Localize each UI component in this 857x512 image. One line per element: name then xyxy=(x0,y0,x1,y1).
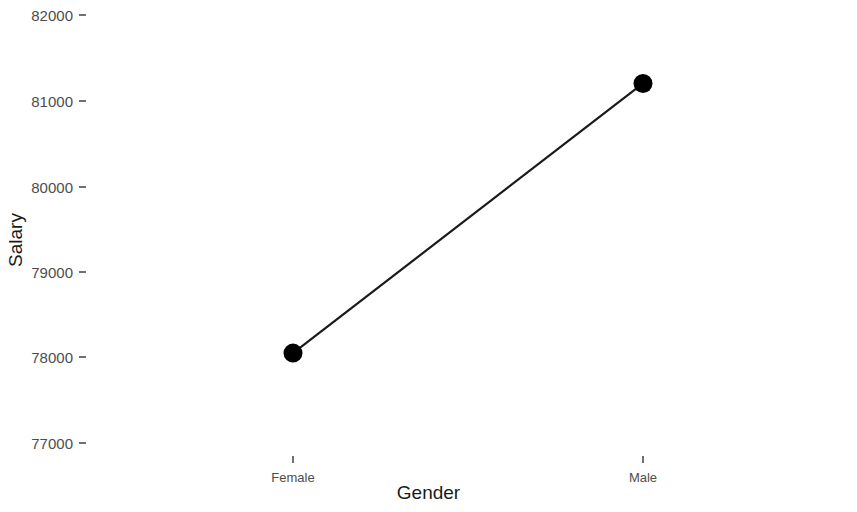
y-tick-label-80000: 80000 xyxy=(10,179,73,196)
data-point-female[interactable] xyxy=(284,344,303,363)
x-axis-title: Gender xyxy=(0,482,857,504)
plot-area xyxy=(0,0,857,512)
chart-figure: 82000 81000 80000 79000 78000 77000 Fema… xyxy=(0,0,857,512)
y-axis-title: Salary xyxy=(5,213,27,267)
y-axis-ticks xyxy=(79,15,86,443)
y-tick-label-77000: 77000 xyxy=(10,435,73,452)
series-line-mean-salary xyxy=(293,83,643,353)
x-axis-ticks xyxy=(293,456,643,463)
y-tick-label-78000: 78000 xyxy=(10,349,73,366)
y-tick-label-81000: 81000 xyxy=(10,93,73,110)
y-tick-label-82000: 82000 xyxy=(10,7,73,24)
data-point-male[interactable] xyxy=(634,74,653,93)
